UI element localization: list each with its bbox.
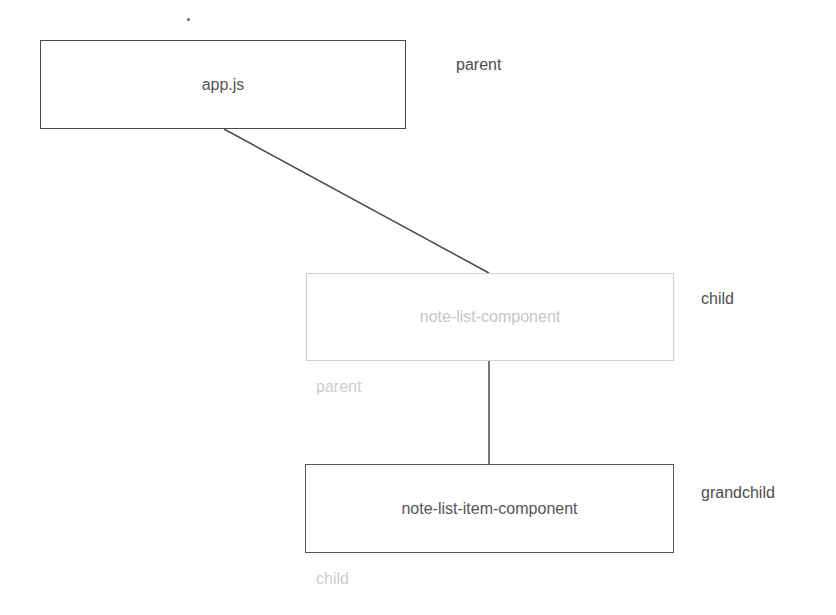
stray-dot [187,18,190,21]
secondary-label-parent: parent [316,378,361,396]
node-label: app.js [202,76,245,94]
node-label: note-list-component [420,308,561,326]
secondary-label-child: child [316,570,349,588]
node-note-list-component: note-list-component [306,273,674,361]
node-label: note-list-item-component [401,500,577,518]
role-label-child: child [701,290,734,308]
edge-app-to-note-list [224,129,489,273]
node-app-js: app.js [40,40,406,129]
diagram-canvas: app.js parent note-list-component child … [0,0,836,615]
role-label-parent: parent [456,56,501,74]
node-note-list-item-component: note-list-item-component [305,464,674,553]
role-label-grandchild: grandchild [701,484,775,502]
